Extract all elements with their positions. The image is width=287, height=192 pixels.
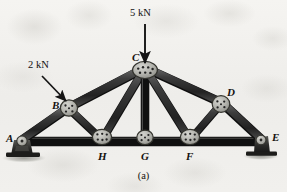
gusset-H — [92, 129, 111, 144]
truss-drawing — [0, 0, 287, 192]
joint-label-H: H — [98, 151, 107, 162]
joint-label-F: F — [186, 151, 193, 162]
load-label-2kn: 2 kN — [28, 60, 49, 71]
joint-label-G: G — [141, 151, 149, 162]
joint-label-D: D — [227, 87, 235, 98]
joint-label-A: A — [6, 133, 13, 144]
joint-label-B: B — [52, 100, 59, 111]
figure-canvas: 5 kN 2 kN A B C D E F G H (a) — [0, 0, 287, 192]
figure-caption: (a) — [0, 170, 287, 181]
gusset-G — [137, 130, 153, 144]
gusset-C — [133, 61, 158, 78]
gusset-B — [60, 100, 77, 116]
gusset-F — [180, 129, 199, 144]
load-label-5kn: 5 kN — [130, 8, 151, 19]
joint-label-C: C — [132, 52, 139, 63]
gusset-D — [212, 96, 230, 113]
load-2kn-arrow — [42, 76, 66, 101]
joint-label-E: E — [272, 132, 279, 143]
